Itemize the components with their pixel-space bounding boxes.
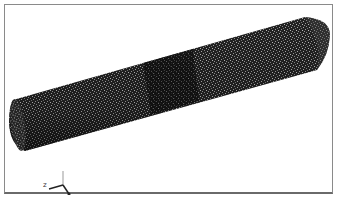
viewport-frame: z bbox=[4, 4, 333, 194]
refined-mesh-region bbox=[143, 49, 199, 115]
triad-z-label: z bbox=[43, 181, 47, 189]
coordinate-triad bbox=[49, 171, 71, 195]
mesh-viewport bbox=[5, 5, 334, 195]
cylinder-mesh bbox=[7, 17, 330, 152]
